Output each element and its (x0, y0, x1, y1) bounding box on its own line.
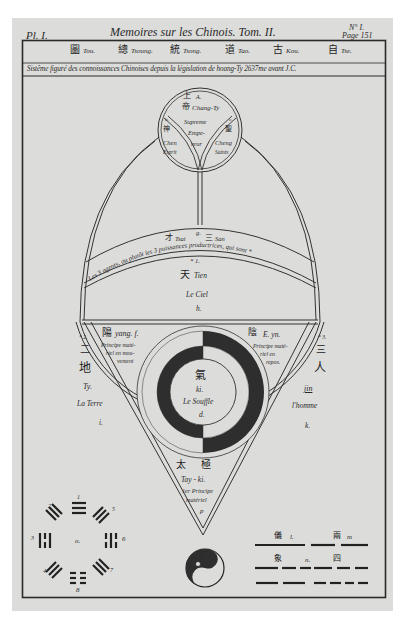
term-roman: Tse. (341, 48, 352, 55)
chang-roman: Chang-Ty (192, 105, 219, 112)
man-french: l'homme (292, 402, 317, 410)
term-roman: Tsoung. (131, 48, 153, 55)
legend-char-si: 四 (333, 555, 341, 563)
earth-roman: Ty. (83, 383, 92, 391)
band-letter: g. (196, 230, 201, 237)
yang-line3: vement (117, 359, 133, 365)
legend-char-xiang: 象 (274, 555, 282, 563)
term-roman: Tsong. (183, 48, 201, 55)
yinyang-letter: p (200, 552, 204, 559)
breath-letter: d. (199, 411, 205, 419)
trigram-number-2: 2 (48, 503, 51, 509)
yin-char: 陰 (248, 328, 257, 337)
taiji-char2: 極 (201, 460, 211, 470)
page-label: Page 151 (342, 32, 372, 40)
term-char: 統 (170, 45, 180, 55)
plate-label: Pl. I. (26, 30, 48, 41)
chen-letter: b. (165, 117, 169, 122)
chang-char: 帝 (182, 103, 190, 111)
yin-line1: Principe maté- (253, 344, 288, 350)
supreme-line3: reur (191, 141, 202, 148)
trigram-number-4: 4 (43, 568, 46, 574)
yang-char: 陽 (102, 328, 112, 338)
breath-char: 氣 (195, 370, 206, 381)
term-char: 古 (273, 45, 283, 55)
chang-char-top: 上 (183, 92, 191, 100)
earth-letter: i. (99, 419, 103, 427)
term-char: 總 (118, 45, 128, 55)
term-roman: Kou. (286, 48, 299, 55)
trigram-number-7: 7 (110, 567, 113, 573)
man-letter: k. (305, 422, 310, 430)
running-title: Memoires sur les Chinois. Tom. II. (110, 26, 276, 38)
lines-legend (255, 545, 368, 583)
trigram-center-letter: o. (75, 538, 80, 545)
earth-french: La Terre (77, 400, 103, 408)
earth-char: 地 (79, 362, 91, 374)
header-terms: 圖 Tou. 總 Tsoung. 統 Tsong. 道 Tao. 古 Kou. … (70, 45, 370, 59)
earth-number: * 2. (79, 335, 87, 341)
legend-letter-l: l. (290, 534, 294, 541)
man-char: 人 (314, 362, 326, 374)
yin-line3: repos. (266, 360, 280, 366)
breath-french: Le Souffle (183, 398, 213, 406)
chen-meaning: Esprit (163, 150, 176, 156)
yin-line2: riel en (260, 352, 275, 358)
taiji-char1: 太 (176, 460, 186, 470)
chen-roman: Chen (163, 140, 177, 147)
cheng-letter: c. (229, 117, 232, 122)
cheng-roman: Cheng (215, 140, 232, 147)
tsai-roman: Tsai (175, 236, 186, 243)
man-roman: jin (304, 385, 312, 393)
chang-letter: A. (196, 94, 201, 100)
earth-char-top: 二 (80, 345, 90, 355)
yang-line1: Principe maté- (101, 343, 136, 349)
cheng-meaning: Saints (215, 150, 228, 156)
legend-char-yi: 儀 (274, 532, 282, 540)
heaven-roman: Tien (194, 272, 207, 280)
legend-letter-m: m (347, 534, 352, 541)
man-number: * 3. (318, 335, 326, 341)
supreme-line1: Supreme (184, 119, 207, 126)
yang-roman: yang. f. (115, 330, 139, 338)
tsai-char: 才 (165, 234, 173, 242)
breath-roman: ki. (196, 386, 203, 394)
trigram-number-8: 8 (76, 587, 80, 594)
header-subtitle: Sistême figuré des connoissances Chinois… (27, 66, 297, 73)
man-char-top: 三 (316, 345, 326, 355)
legend-letter-n: n. (305, 557, 310, 564)
yang-line2: riel en mou- (106, 351, 134, 357)
term-roman: Tou. (83, 48, 95, 55)
trigram-number-1: 1 (77, 494, 80, 500)
term-char: 圖 (70, 45, 80, 55)
term-roman: Tao. (238, 48, 250, 55)
legend-char-liang: 兩 (333, 532, 341, 540)
san-char: 三 (205, 234, 213, 242)
yin-roman: E. yn. (263, 331, 280, 339)
heaven-char: 天 (180, 270, 190, 280)
trigram-number-3: 3 (31, 535, 34, 541)
taiji-line2: matériel (186, 497, 207, 503)
taiji-roman: Tay - ki. (181, 476, 205, 484)
trigram-number-6: 6 (122, 536, 126, 543)
taiji-letter: p (200, 508, 204, 515)
taiji-line1: 1er Principe (182, 488, 213, 494)
heaven-letter: h. (196, 305, 202, 313)
term-char: 道 (225, 45, 235, 55)
supreme-line2: Empe- (188, 130, 205, 137)
san-roman: San (215, 236, 225, 243)
trigram-number-5: 5 (112, 506, 115, 512)
cheng-char: 聖 (225, 126, 232, 133)
heaven-french: Le Ciel (186, 291, 208, 299)
term-char: 自 (328, 45, 338, 55)
heaven-number: * 1. (190, 258, 200, 265)
chen-char: 神 (163, 126, 170, 133)
